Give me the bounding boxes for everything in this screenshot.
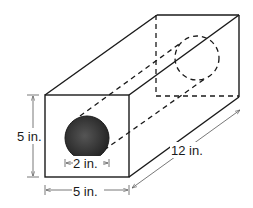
- prism-diagram: 5 in. 5 in. 2 in. 12 in.: [0, 0, 253, 208]
- height-label: 5 in.: [17, 129, 42, 144]
- front-hole: [65, 116, 109, 160]
- hole-lower-tangent: [104, 78, 206, 150]
- top-left-edge: [45, 15, 157, 95]
- top-right-edge: [129, 15, 239, 95]
- width-label: 5 in.: [73, 184, 98, 199]
- length-label: 12 in.: [171, 143, 203, 158]
- back-hole-outline: [175, 36, 219, 80]
- hole-upper-tangent: [80, 42, 182, 116]
- dimension-lines: [27, 95, 240, 195]
- diameter-label: 2 in.: [73, 156, 98, 171]
- bottom-right-edge: [129, 97, 239, 177]
